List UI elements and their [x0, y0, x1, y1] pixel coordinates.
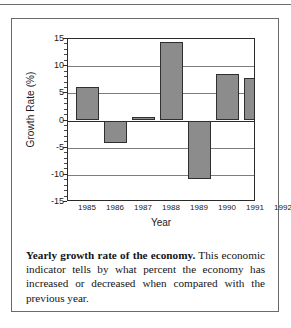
- caption-lead: Yearly growth rate of the economy.: [26, 249, 195, 261]
- bar-series: [68, 39, 254, 200]
- bar-1988: [160, 42, 183, 121]
- y-tick-label: 0: [38, 115, 64, 125]
- bar-1987: [132, 117, 155, 120]
- y-tick-label: -15: [38, 196, 64, 206]
- x-tick-label: 1990: [218, 203, 236, 212]
- bar-1990: [216, 74, 239, 120]
- x-axis-title: Year: [67, 217, 255, 228]
- y-tick-label: -10: [38, 169, 64, 179]
- plot-area: [67, 38, 255, 201]
- chart-region: Growth Rate (%) 15 10 5 0 -5 -10 -15: [11, 18, 279, 240]
- x-tick-label: 1991: [246, 203, 264, 212]
- bar-1985: [76, 87, 99, 120]
- x-tick-label: 1989: [190, 203, 208, 212]
- y-tick-label: -5: [38, 142, 64, 152]
- x-tick-label: 1986: [106, 203, 124, 212]
- x-tick-label: 1992: [274, 203, 291, 212]
- y-tick-label: 10: [38, 60, 64, 70]
- y-tick-label: 5: [38, 87, 64, 97]
- page-top-rule: [0, 4, 291, 5]
- bar-1989: [188, 121, 211, 179]
- bar-1986: [104, 121, 127, 144]
- x-tick-label: 1987: [134, 203, 152, 212]
- x-tick-label: 1985: [78, 203, 96, 212]
- x-axis-tick-labels: 1985 1986 1987 1988 1989 1990 1991 1992 …: [67, 203, 255, 217]
- bar-1991: [244, 78, 255, 121]
- y-tick-label: 15: [38, 33, 64, 43]
- figure-page: Growth Rate (%) 15 10 5 0 -5 -10 -15: [0, 0, 291, 328]
- y-tick-major: [63, 201, 67, 202]
- figure-caption: Yearly growth rate of the economy. This …: [26, 248, 265, 305]
- y-axis-tick-labels: 15 10 5 0 -5 -10 -15: [33, 38, 64, 201]
- x-tick-label: 1988: [162, 203, 180, 212]
